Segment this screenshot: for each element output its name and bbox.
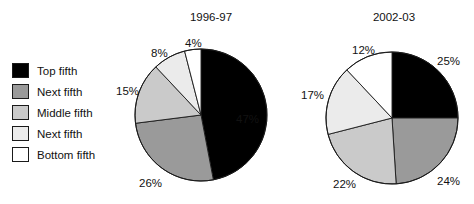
legend-swatch-next-fifth-upper [12, 84, 29, 99]
legend-item-top-fifth: Top fifth [12, 60, 127, 81]
legend-label-bottom-fifth: Bottom fifth [37, 149, 95, 161]
legend-item-next-fifth-lower: Next fifth [12, 123, 127, 144]
pie-percentage-label: 26% [139, 177, 162, 189]
pie-percentage-label: 17% [301, 89, 324, 101]
pie-percentage-label: 22% [333, 178, 356, 190]
pie-slice [392, 118, 458, 184]
legend-label-top-fifth: Top fifth [37, 65, 77, 77]
pie-percentage-label: 12% [352, 44, 375, 56]
legend-item-next-fifth-upper: Next fifth [12, 81, 127, 102]
pie-slice [136, 115, 214, 181]
pie-title-1996-97: 1996-97 [175, 11, 247, 23]
pie-percentage-label: 47% [236, 113, 259, 125]
pie-chart-figure: Top fifth Next fifth Middle fifth Next f… [0, 0, 474, 204]
pie-title-2002-03: 2002-03 [358, 11, 430, 23]
legend-label-middle-fifth: Middle fifth [37, 107, 93, 119]
legend-label-next-fifth-upper: Next fifth [37, 86, 82, 98]
legend-swatch-next-fifth-lower [12, 126, 29, 141]
legend-swatch-middle-fifth [12, 105, 29, 120]
legend-label-next-fifth-lower: Next fifth [37, 128, 82, 140]
pie-percentage-label: 25% [437, 55, 460, 67]
legend-swatch-top-fifth [12, 63, 29, 78]
pie-chart-2002-03 [325, 51, 459, 185]
legend-item-bottom-fifth: Bottom fifth [12, 144, 127, 165]
legend-swatch-bottom-fifth [12, 147, 29, 162]
pie-percentage-label: 4% [185, 37, 202, 49]
pie-percentage-label: 15% [116, 85, 139, 97]
chart-legend: Top fifth Next fifth Middle fifth Next f… [12, 60, 127, 165]
pie-svg-2002-03 [325, 51, 459, 185]
pie-percentage-label: 24% [437, 175, 460, 187]
legend-item-middle-fifth: Middle fifth [12, 102, 127, 123]
pie-percentage-label: 8% [151, 47, 168, 59]
